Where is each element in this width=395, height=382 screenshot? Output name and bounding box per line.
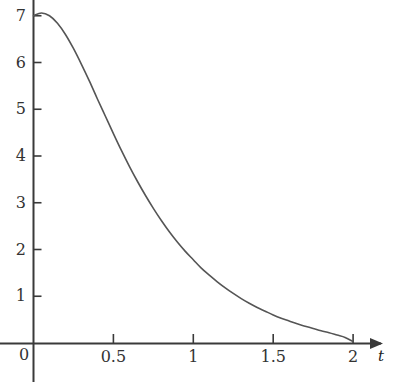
- y-tick-label: 6: [16, 55, 26, 71]
- y-tick-label: 4: [16, 148, 26, 164]
- axes-group: [0, 0, 383, 382]
- plot-canvas: [0, 0, 395, 382]
- y-tick-label: 5: [16, 101, 26, 117]
- y-tick-marks: [34, 16, 42, 297]
- x-axis-label: t: [378, 349, 384, 364]
- x-tick-label: 0.5: [101, 349, 126, 365]
- x-tick-label: 1: [188, 349, 198, 365]
- y-tick-label: 1: [16, 288, 26, 304]
- origin-tick-label: 0: [19, 347, 29, 363]
- y-tick-label: 3: [16, 195, 26, 211]
- y-tick-label: 7: [16, 8, 26, 24]
- x-tick-label: 1.5: [260, 349, 285, 365]
- x-tick-label: 2: [348, 349, 358, 365]
- chart-figure: 1234567 0.511.52 0 t: [0, 0, 395, 382]
- data-curve: [34, 13, 354, 342]
- y-tick-label: 2: [16, 242, 26, 258]
- x-tick-marks: [113, 334, 353, 343]
